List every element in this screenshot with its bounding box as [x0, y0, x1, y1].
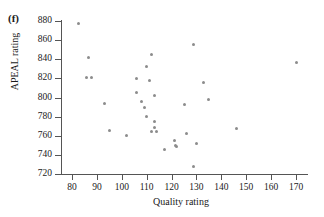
- x-tick-label: 90: [84, 183, 110, 193]
- y-tick-label: 860: [26, 35, 52, 45]
- figure-panel: (f) APEAL rating Quality rating 72074076…: [0, 0, 324, 217]
- x-tick: [97, 175, 98, 180]
- y-tick: [55, 40, 61, 41]
- scatter-point: [153, 126, 156, 129]
- scatter-point: [150, 53, 153, 56]
- x-tick: [196, 175, 197, 180]
- y-tick: [55, 155, 61, 156]
- scatter-point: [175, 145, 178, 148]
- x-tick: [271, 175, 272, 180]
- y-tick: [55, 174, 61, 175]
- scatter-point: [192, 43, 195, 46]
- x-tick-label: 120: [159, 183, 185, 193]
- x-tick-label: 170: [283, 183, 309, 193]
- x-tick-label: 80: [59, 183, 85, 193]
- x-tick: [172, 175, 173, 180]
- scatter-point: [135, 91, 138, 94]
- x-tick: [296, 175, 297, 180]
- y-tick-label: 760: [26, 131, 52, 141]
- x-tick-label: 150: [233, 183, 259, 193]
- scatter-point: [192, 165, 195, 168]
- scatter-point: [145, 65, 148, 68]
- y-tick-label: 780: [26, 112, 52, 122]
- scatter-point: [125, 134, 128, 137]
- scatter-point: [145, 115, 148, 118]
- y-axis-line: [61, 20, 62, 175]
- y-tick: [55, 78, 61, 79]
- y-tick-label: 720: [26, 169, 52, 179]
- scatter-point: [235, 127, 238, 130]
- y-tick-label: 880: [26, 16, 52, 26]
- scatter-point: [87, 56, 90, 59]
- scatter-point: [202, 81, 205, 84]
- y-tick: [55, 59, 61, 60]
- x-tick: [122, 175, 123, 180]
- scatter-point: [150, 130, 153, 133]
- scatter-point: [103, 102, 106, 105]
- scatter-point: [163, 148, 166, 151]
- y-tick-label: 820: [26, 73, 52, 83]
- scatter-point: [155, 130, 158, 133]
- x-tick-label: 100: [109, 183, 135, 193]
- y-tick-label: 800: [26, 93, 52, 103]
- scatter-point: [173, 139, 176, 142]
- scatter-point: [143, 106, 146, 109]
- x-tick: [72, 175, 73, 180]
- scatter-point: [153, 94, 156, 97]
- scatter-point: [135, 77, 138, 80]
- scatter-point: [85, 76, 88, 79]
- y-tick: [55, 117, 61, 118]
- scatter-point: [207, 98, 210, 101]
- scatter-point: [195, 142, 198, 145]
- x-tick: [221, 175, 222, 180]
- x-tick: [147, 175, 148, 180]
- scatter-point: [108, 129, 111, 132]
- x-tick-label: 160: [258, 183, 284, 193]
- scatter-point: [90, 76, 93, 79]
- y-tick-label: 740: [26, 150, 52, 160]
- scatter-point: [140, 100, 143, 103]
- scatter-point: [295, 61, 298, 64]
- scatter-point: [185, 132, 188, 135]
- x-tick-label: 130: [183, 183, 209, 193]
- y-tick: [55, 21, 61, 22]
- x-tick-label: 140: [208, 183, 234, 193]
- y-tick: [55, 136, 61, 137]
- scatter-plot-area: 720740760780800820840860880 809010011012…: [0, 0, 324, 217]
- x-tick-label: 110: [134, 183, 160, 193]
- scatter-point: [183, 103, 186, 106]
- y-tick-label: 840: [26, 54, 52, 64]
- scatter-point: [77, 22, 80, 25]
- y-tick: [55, 98, 61, 99]
- scatter-point: [148, 79, 151, 82]
- x-tick: [246, 175, 247, 180]
- scatter-point: [153, 120, 156, 123]
